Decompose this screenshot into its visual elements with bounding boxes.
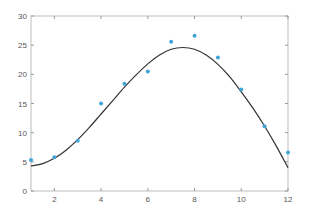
y-tick-label: 15 (18, 100, 27, 109)
y-tick-label: 0 (23, 187, 28, 196)
data-point (99, 102, 103, 106)
data-point (29, 158, 33, 162)
x-axis-tick-labels: 24681012 (52, 195, 293, 204)
x-tick-label: 8 (192, 195, 197, 204)
x-tick-label: 4 (99, 195, 104, 204)
x-tick-label: 12 (284, 195, 293, 204)
data-point (239, 88, 243, 92)
data-point (193, 34, 197, 38)
scatter-chart: 24681012 051015202530 (0, 0, 309, 214)
x-tick-label: 2 (52, 195, 57, 204)
y-tick-label: 25 (18, 41, 27, 50)
y-axis-tick-labels: 051015202530 (18, 12, 27, 196)
data-point (216, 55, 220, 59)
data-point (169, 40, 173, 44)
y-tick-label: 20 (18, 70, 27, 79)
data-point (263, 124, 267, 128)
y-tick-label: 5 (23, 158, 28, 167)
y-tick-label: 10 (18, 129, 27, 138)
y-tick-label: 30 (18, 12, 27, 21)
data-point (76, 139, 80, 143)
data-point (146, 69, 150, 73)
x-tick-label: 6 (146, 195, 151, 204)
x-tick-label: 10 (237, 195, 246, 204)
data-point (122, 82, 126, 86)
data-point (286, 151, 290, 155)
data-point (52, 155, 56, 159)
